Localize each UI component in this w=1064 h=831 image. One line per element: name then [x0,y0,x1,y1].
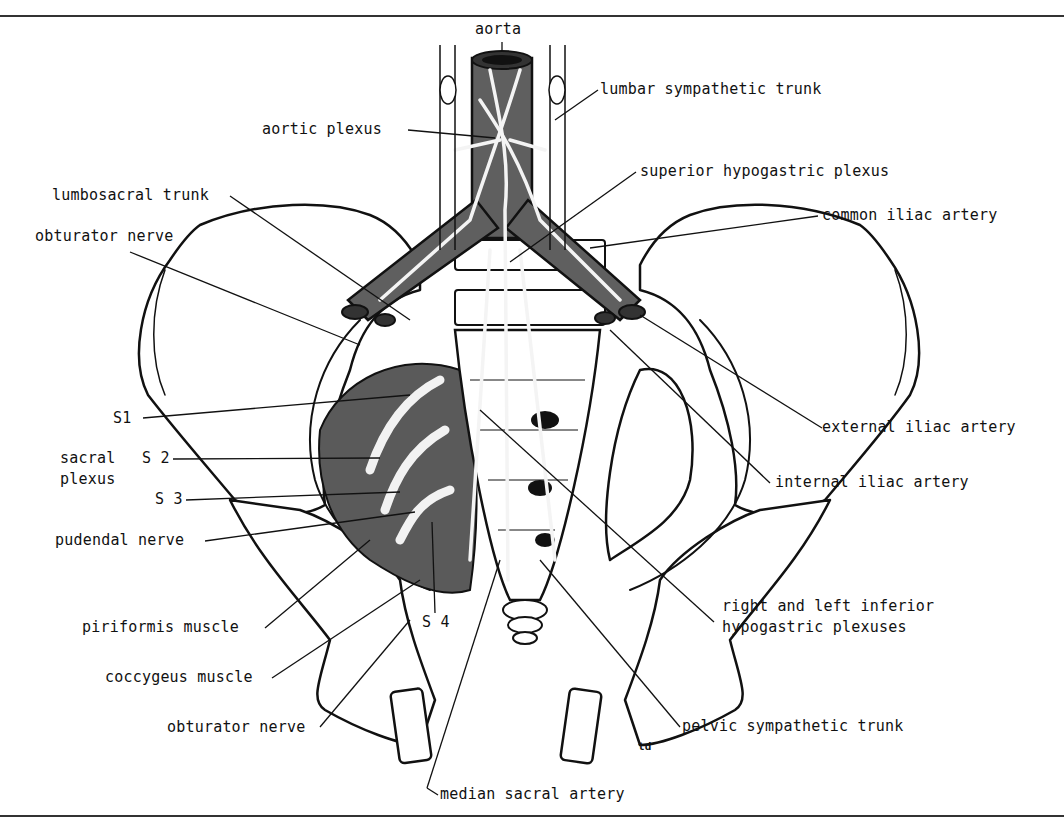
label-common-iliac-artery: common iliac artery [822,206,997,225]
label-obturator-nerve-lower: obturator nerve [167,718,305,737]
label-piriformis-muscle: piriformis muscle [82,618,239,637]
label-s4: S 4 [422,613,450,632]
label-lumbar-sympathetic-trunk: lumbar sympathetic trunk [600,80,822,99]
artist-mark: td [638,737,652,756]
label-s2: S 2 [142,449,170,468]
label-aorta: aorta [475,20,521,39]
label-coccygeus-muscle: coccygeus muscle [105,668,253,687]
label-sacral-plexus-line2: plexus [60,470,115,489]
label-aortic-plexus: aortic plexus [262,120,382,139]
label-lumbosacral-trunk: lumbosacral trunk [52,186,209,205]
label-inferior-hypogastric-line2: hypogastric plexuses [722,618,907,637]
label-s1: S1 [113,409,131,428]
label-pelvic-sympathetic-trunk: pelvic sympathetic trunk [682,717,904,736]
label-median-sacral-artery: median sacral artery [440,785,625,804]
label-sacral-plexus-line1: sacral [60,449,115,468]
label-pudendal-nerve: pudendal nerve [55,531,184,550]
label-obturator-nerve-upper: obturator nerve [35,227,173,246]
label-internal-iliac-artery: internal iliac artery [775,473,969,492]
label-s3: S 3 [155,490,183,509]
label-external-iliac-artery: external iliac artery [822,418,1016,437]
label-inferior-hypogastric-line1: right and left inferior [722,597,934,616]
pelvis-illustration [0,0,1064,831]
label-superior-hypogastric-plexus: superior hypogastric plexus [640,162,889,181]
